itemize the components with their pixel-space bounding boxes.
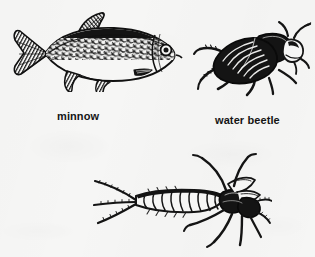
figure-page: minnow water beetle [0, 0, 315, 257]
minnow-anal-fin [65, 71, 80, 92]
minnow-eye [161, 45, 172, 56]
minnow-dorsal-speckles [44, 29, 176, 60]
minnow-body-group [14, 13, 182, 92]
beetle-body-group [194, 22, 311, 95]
minnow-illustration [10, 8, 185, 92]
larva-cerci [94, 180, 136, 223]
caption-minnow: minnow [57, 110, 99, 123]
larva-body-group [94, 154, 272, 247]
beetle-mandible [301, 59, 309, 68]
caption-water-beetle: water beetle [215, 114, 280, 127]
water-beetle-illustration [193, 18, 313, 98]
minnow-caudal-fin [14, 31, 47, 75]
insect-larva-illustration [92, 152, 272, 252]
minnow-mouth [176, 55, 182, 58]
